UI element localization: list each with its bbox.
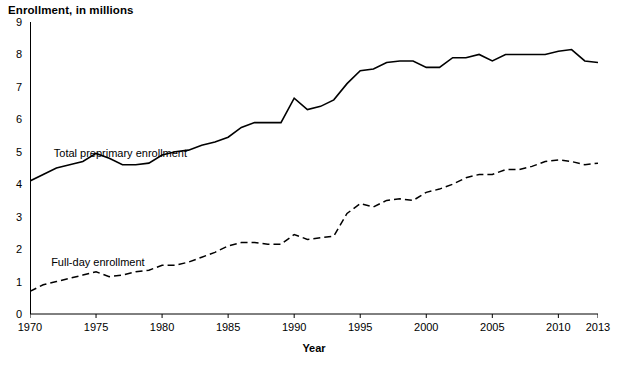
series-line-total-preprimary-enrollment	[30, 50, 598, 181]
series-annotation: Total preprimary enrollment	[54, 147, 187, 159]
y-tick-label: 5	[4, 146, 22, 158]
x-tick-label: 2010	[541, 321, 575, 333]
series-line-full-day-enrollment	[30, 160, 598, 291]
plot-area: 0123456789 19701975198019851990199520002…	[30, 22, 598, 322]
y-tick-label: 6	[4, 113, 22, 125]
axes	[31, 22, 599, 314]
y-tick-label: 8	[4, 48, 22, 60]
x-axis-title: Year	[254, 342, 374, 354]
series-annotation: Full-day enrollment	[51, 256, 145, 268]
x-tick-label: 1980	[145, 321, 179, 333]
chart-svg	[30, 22, 598, 322]
chart-title: Enrollment, in millions	[8, 4, 134, 16]
x-tick-label: 1970	[13, 321, 47, 333]
y-tick-label: 2	[4, 243, 22, 255]
y-tick-label: 3	[4, 211, 22, 223]
y-tick-label: 4	[4, 178, 22, 190]
x-tick-label: 1990	[277, 321, 311, 333]
chart-container: Enrollment, in millions 0123456789 19701…	[0, 0, 618, 369]
y-tick-label: 7	[4, 81, 22, 93]
x-tick-label: 1995	[343, 321, 377, 333]
x-axis-ticks	[30, 314, 598, 318]
y-tick-label: 0	[4, 308, 22, 320]
x-tick-label: 1975	[79, 321, 113, 333]
y-tick-label: 9	[4, 16, 22, 28]
x-tick-label: 2000	[409, 321, 443, 333]
x-tick-label: 2013	[581, 321, 615, 333]
y-tick-label: 1	[4, 276, 22, 288]
x-tick-label: 2005	[475, 321, 509, 333]
x-tick-label: 1985	[211, 321, 245, 333]
